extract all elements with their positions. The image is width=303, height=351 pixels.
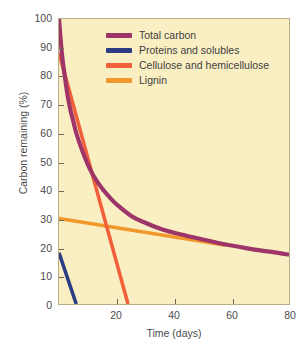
y-tick-label: 100 — [34, 13, 52, 23]
legend-swatch-icon — [106, 78, 132, 83]
x-tick-label: 60 — [226, 310, 238, 320]
series-line-proteins-and-solubles — [59, 253, 76, 304]
y-tick-mark — [59, 163, 64, 164]
y-tick-label: 50 — [40, 157, 52, 167]
y-tick-label: 30 — [40, 214, 52, 224]
x-tick-label: 80 — [284, 310, 296, 320]
legend-swatch-icon — [106, 63, 132, 68]
x-tick-mark — [233, 299, 234, 304]
y-tick-mark — [59, 134, 64, 135]
legend-item-label: Lignin — [139, 75, 167, 86]
y-tick-mark — [59, 277, 64, 278]
x-tick-mark — [117, 299, 118, 304]
chart-legend: Total carbonProteins and solublesCellulo… — [106, 29, 269, 87]
y-tick-mark — [59, 76, 64, 77]
y-tick-mark — [59, 249, 64, 250]
y-tick-label: 20 — [40, 243, 52, 253]
x-tick-mark — [175, 299, 176, 304]
legend-item[interactable]: Total carbon — [106, 29, 269, 42]
legend-item[interactable]: Cellulose and hemicellulose — [106, 59, 269, 72]
x-tick-label: 40 — [168, 310, 180, 320]
legend-item-label: Cellulose and hemicellulose — [139, 60, 269, 71]
y-tick-label: 40 — [40, 185, 52, 195]
y-tick-label: 80 — [40, 70, 52, 80]
y-tick-label: 10 — [40, 271, 52, 281]
legend-item-label: Total carbon — [139, 30, 196, 41]
x-axis-tick-labels: 20406080 — [0, 310, 303, 324]
y-axis-title: Carbon remaining (%) — [17, 63, 29, 223]
legend-item[interactable]: Lignin — [106, 74, 269, 87]
legend-item-label: Proteins and solubles — [139, 45, 239, 56]
legend-swatch-icon — [106, 33, 132, 38]
x-tick-label: 20 — [110, 310, 122, 320]
y-tick-mark — [59, 48, 64, 49]
legend-item[interactable]: Proteins and solubles — [106, 44, 269, 57]
y-tick-label: 90 — [40, 42, 52, 52]
y-tick-mark — [59, 105, 64, 106]
y-tick-mark — [59, 220, 64, 221]
y-tick-mark — [59, 191, 64, 192]
y-tick-label: 60 — [40, 128, 52, 138]
chart-figure: 0102030405060708090100 20406080 Carbon r… — [0, 0, 303, 351]
x-axis-title: Time (days) — [58, 327, 290, 339]
y-tick-label: 70 — [40, 99, 52, 109]
y-tick-label: 0 — [46, 300, 52, 310]
legend-swatch-icon — [106, 48, 132, 53]
